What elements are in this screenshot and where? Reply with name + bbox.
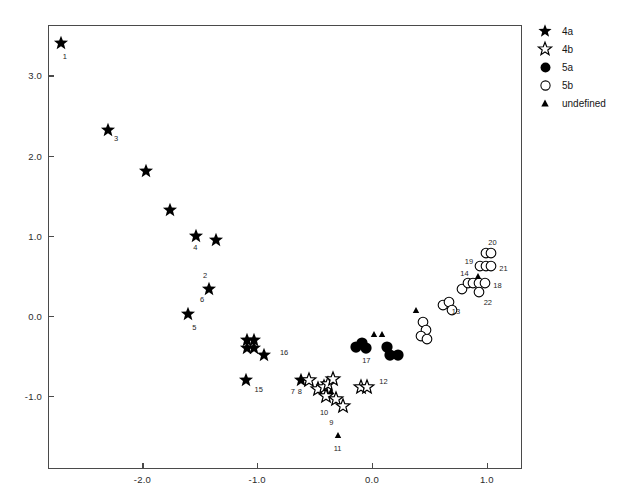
legend-item-label: 4b [562, 44, 573, 55]
data-point-4b [326, 371, 341, 386]
data-point-4a [238, 373, 253, 388]
y-tick [48, 236, 54, 237]
data-point-4a [53, 36, 68, 51]
x-tick [142, 463, 143, 469]
data-point-4a [181, 307, 196, 322]
data-point-label: 4 [193, 242, 197, 251]
data-point-5b [486, 248, 498, 260]
data-point-4a [208, 232, 223, 247]
legend-item-label: 5a [562, 62, 573, 73]
data-point-label: 9 [329, 417, 333, 426]
data-point-undefined [327, 387, 334, 394]
y-tick-label: 0.0 [4, 311, 42, 322]
data-point-4a [138, 163, 153, 178]
data-point-label: 19 [465, 257, 473, 266]
y-tick-label: 2.0 [4, 151, 42, 162]
legend-item-5b[interactable]: 5b [536, 76, 630, 94]
data-point-undefined [334, 431, 341, 438]
data-point-undefined [379, 331, 386, 338]
data-point-5b [473, 286, 485, 298]
legend: 4a4b5a5bundefined [536, 22, 630, 112]
data-point-5b [421, 333, 433, 345]
data-point-label: 14 [460, 269, 468, 278]
data-point-4b [336, 399, 351, 414]
data-point-label: 17 [362, 356, 370, 365]
legend-item-label: 4a [562, 26, 573, 37]
y-tick [48, 75, 54, 76]
legend-item-4b[interactable]: 4b [536, 40, 630, 58]
data-point-label: 21 [499, 264, 507, 273]
x-tick-label: -2.0 [134, 474, 151, 485]
y-tick-label: 1.0 [4, 231, 42, 242]
data-point-label: 13 [452, 306, 460, 315]
x-tick-label: 1.0 [480, 474, 494, 485]
y-axis-line [48, 25, 49, 469]
data-point-label: 10 [320, 408, 328, 417]
scatter-plot-figure: -2.0-1.00.01.03.02.01.00.0-1.0 134651615… [0, 0, 630, 504]
data-point-undefined [474, 272, 481, 279]
data-point-label: 3 [114, 133, 118, 142]
legend-item-undefined[interactable]: undefined [536, 94, 630, 112]
filled-star-icon [536, 22, 554, 40]
y-tick [48, 396, 54, 397]
plot-frame-top [48, 25, 522, 26]
data-point-4b [360, 379, 375, 394]
y-tick-label: 3.0 [4, 70, 42, 81]
x-tick-label: 0.0 [365, 474, 379, 485]
data-point-4a [189, 228, 204, 243]
data-point-label: 18 [493, 281, 501, 290]
legend-item-label: 5b [562, 80, 573, 91]
data-point-5a [360, 342, 373, 355]
filled-triangle-icon [536, 94, 554, 112]
x-axis-line [48, 468, 522, 469]
data-point-label: 22 [484, 297, 492, 306]
legend-item-label: undefined [562, 98, 606, 109]
data-point-label: 6 [200, 294, 204, 303]
y-tick-label: -1.0 [4, 391, 42, 402]
data-point-label: 5 [192, 323, 196, 332]
data-point-5b [486, 261, 498, 273]
data-point-undefined [371, 331, 378, 338]
legend-item-5a[interactable]: 5a [536, 58, 630, 76]
data-point-label: 16 [280, 347, 288, 356]
data-point-4a [163, 203, 178, 218]
data-point-label: 20 [488, 238, 496, 247]
data-point-4a [257, 347, 272, 362]
filled-circle-icon [536, 58, 554, 76]
data-point-label: 1 [63, 52, 67, 61]
legend-item-4a[interactable]: 4a [536, 22, 630, 40]
data-point-label: 12 [379, 376, 387, 385]
data-point-label: 11 [334, 443, 342, 452]
x-tick [257, 463, 258, 469]
x-tick-label: -1.0 [249, 474, 266, 485]
data-point-label: 15 [255, 385, 263, 394]
data-point-undefined [412, 307, 419, 314]
data-point-label: 2 [203, 271, 207, 280]
data-point-label: 7 [291, 387, 295, 396]
data-point-5a [392, 348, 405, 361]
data-point-label: 8 [298, 387, 302, 396]
y-tick [48, 156, 54, 157]
x-tick [487, 463, 488, 469]
plot-frame-right [521, 25, 522, 469]
open-circle-icon [536, 76, 554, 94]
open-star-icon [536, 40, 554, 58]
y-tick [48, 316, 54, 317]
x-tick [372, 463, 373, 469]
